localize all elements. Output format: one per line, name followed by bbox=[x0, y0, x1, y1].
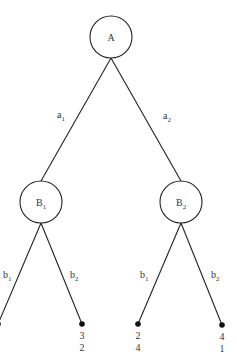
leaf-4-payoff-bottom: 1 bbox=[220, 343, 225, 354]
edge-a1 bbox=[41, 58, 111, 181]
leaf-3-payoff-top: 2 bbox=[136, 330, 141, 341]
node-A-label: A bbox=[107, 32, 115, 43]
leaf-4-payoff-top: 4 bbox=[220, 331, 225, 342]
node-B2: B2 bbox=[160, 181, 202, 223]
node-B1: B1 bbox=[20, 181, 62, 223]
leaf-2-payoff-top: 3 bbox=[80, 330, 85, 341]
action-label-b2-B1: b2 bbox=[70, 269, 79, 283]
leaf-dot-icon bbox=[219, 322, 225, 328]
action-label-b1-B2: b1 bbox=[140, 269, 149, 283]
leaf-2: 3 2 bbox=[79, 321, 85, 353]
leaf-3: 2 4 bbox=[135, 321, 141, 353]
action-label-a1: a1 bbox=[57, 109, 65, 123]
node-A: A bbox=[90, 16, 132, 58]
game-tree-diagram: A B1 B2 a1 a2 b1 b2 b1 b2 3 2 2 4 4 1 bbox=[0, 0, 237, 361]
leaf-3-payoff-bottom: 4 bbox=[136, 342, 141, 353]
leaf-dot-icon bbox=[135, 321, 141, 327]
action-label-a2: a2 bbox=[163, 110, 171, 124]
leaf-dot-icon bbox=[79, 321, 85, 327]
action-label-b2-B2: b2 bbox=[211, 269, 220, 283]
leaf-2-payoff-bottom: 2 bbox=[80, 342, 85, 353]
leaf-1 bbox=[0, 321, 1, 327]
leaf-4: 4 1 bbox=[219, 322, 225, 354]
leaf-dot-icon bbox=[0, 321, 1, 327]
edge-b2-from-B1 bbox=[41, 223, 82, 324]
action-label-b1-B1: b1 bbox=[3, 269, 12, 283]
